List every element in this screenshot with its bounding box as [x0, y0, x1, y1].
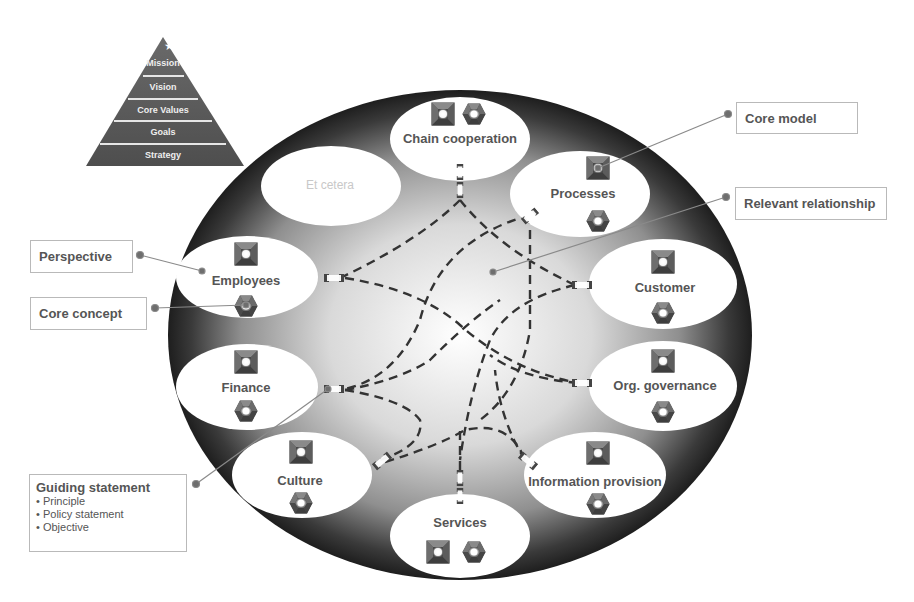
callout-core-concept: Core concept: [30, 297, 147, 330]
perspective-chain-cooperation: Chain cooperation: [390, 131, 530, 146]
star-icon: ★: [164, 39, 175, 53]
pyramid-level-vision: Vision: [86, 82, 240, 92]
perspective-org-governance: Org. governance: [600, 378, 730, 393]
pyramid-level-goals: Goals: [86, 127, 240, 137]
perspective-finance: Finance: [196, 380, 296, 395]
pyramid-level-mission: Mission: [86, 58, 240, 68]
perspective-customer: Customer: [610, 280, 720, 295]
guiding-statement-item: • Objective: [36, 521, 180, 534]
pyramid-level-strategy: Strategy: [86, 150, 240, 160]
guiding-statement-item: • Principle: [36, 495, 180, 508]
callout-perspective: Perspective: [30, 240, 133, 273]
strategy-pyramid: ★: [86, 37, 244, 166]
perspective-services: Services: [400, 515, 520, 530]
perspective-information-provision: Information provision: [520, 474, 670, 489]
callout-relevant-relationship: Relevant relationship: [735, 187, 887, 220]
callout-core-model: Core model: [736, 102, 858, 134]
perspective-employees: Employees: [196, 273, 296, 288]
guiding-statement-item: • Policy statement: [36, 508, 180, 521]
perspective-et-cetera: Et cetera: [280, 178, 380, 192]
callout-guiding-statement: Guiding statement • Principle • Policy s…: [29, 474, 187, 552]
perspective-processes: Processes: [528, 186, 638, 201]
perspective-culture: Culture: [250, 473, 350, 488]
guiding-statement-title: Guiding statement: [36, 480, 180, 495]
pyramid-level-core-values: Core Values: [86, 105, 240, 115]
